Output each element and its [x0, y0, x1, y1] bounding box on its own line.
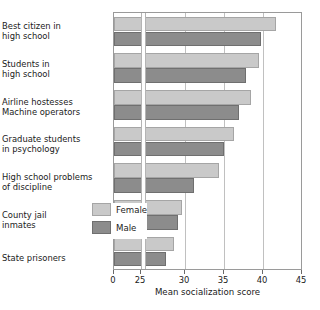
bar-male-6 — [114, 252, 166, 267]
bar-female-3 — [114, 127, 234, 142]
bar-female-4 — [114, 163, 219, 178]
legend-swatch-male-icon — [92, 221, 111, 234]
category-label-state-prisoners: State prisoners — [2, 253, 102, 263]
bar-female-2 — [114, 90, 251, 105]
category-label-discipline: High school problems of discipline — [2, 172, 102, 193]
legend: Female Male — [92, 203, 147, 239]
bar-male-0 — [114, 32, 261, 47]
x-tick-mark-30 — [184, 270, 185, 274]
bar-female-1 — [114, 53, 259, 68]
bar-female-0 — [114, 17, 276, 32]
category-label-graduate-students: Graduate students in psychology — [2, 134, 102, 155]
x-tick-label-30: 30 — [179, 275, 190, 285]
x-tick-label-35: 35 — [218, 275, 229, 285]
x-axis-title: Mean socialization score — [113, 287, 302, 297]
x-tick-mark-35 — [223, 270, 224, 274]
x-tick-mark-25 — [140, 270, 141, 274]
x-axis: 02530354045 Mean socialization score — [113, 270, 302, 310]
bar-male-3 — [114, 142, 224, 157]
legend-label-male: Male — [116, 223, 136, 233]
x-tick-label-0: 0 — [110, 275, 115, 285]
bar-male-1 — [114, 68, 246, 83]
bar-male-4 — [114, 178, 194, 193]
category-label-hostesses-operators: Airline hostesses Machine operators — [2, 97, 102, 118]
category-label-county-jail: County jail inmates — [2, 210, 102, 231]
legend-swatch-female-icon — [92, 203, 111, 216]
x-tick-mark-0 — [113, 270, 114, 274]
bar-chart: Best citizen in high school Students in … — [0, 0, 320, 310]
legend-label-female: Female — [116, 205, 147, 215]
category-label-students: Students in high school — [2, 59, 102, 80]
x-tick-mark-40 — [262, 270, 263, 274]
x-tick-label-25: 25 — [135, 275, 146, 285]
gridline-40 — [263, 13, 264, 269]
category-label-best-citizen: Best citizen in high school — [2, 21, 102, 42]
legend-item-female[interactable]: Female — [92, 203, 147, 216]
x-tick-label-45: 45 — [296, 275, 307, 285]
legend-item-male[interactable]: Male — [92, 221, 147, 234]
x-tick-label-40: 40 — [257, 275, 268, 285]
bar-male-2 — [114, 105, 239, 120]
x-tick-mark-45 — [301, 270, 302, 274]
